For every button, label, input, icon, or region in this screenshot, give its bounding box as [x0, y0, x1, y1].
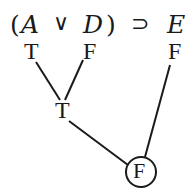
- open-paren: (: [10, 12, 20, 37]
- value-main-connective: F: [133, 160, 145, 182]
- value-disjunction: T: [55, 98, 70, 122]
- value-a: T: [24, 39, 39, 63]
- variable-d: D: [83, 12, 103, 37]
- disjunction-operator: ∨: [53, 12, 69, 34]
- variable-a: A: [21, 12, 39, 37]
- close-paren: ): [106, 12, 116, 37]
- edge-disjunction-to-main: [69, 121, 128, 165]
- edge-d-to-disjunction: [65, 60, 83, 100]
- edge-a-to-disjunction: [36, 62, 60, 100]
- value-d: F: [83, 39, 96, 63]
- value-e: F: [168, 39, 181, 63]
- variable-e: E: [167, 12, 185, 37]
- implication-operator: ⊃: [131, 13, 149, 35]
- edge-e-to-main: [145, 65, 170, 157]
